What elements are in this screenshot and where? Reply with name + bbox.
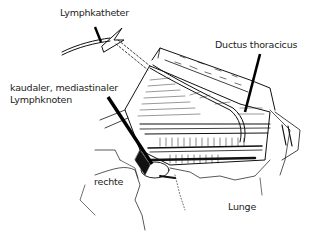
label-rechte: rechte	[94, 176, 123, 187]
label-lymphkatheter: Lymphkatheter	[60, 7, 129, 18]
left-lung-outline	[170, 160, 270, 180]
surgical-illustration	[0, 0, 313, 233]
label-lunge: Lunge	[228, 201, 256, 212]
label-kaudaler-mediastinaler: kaudaler, mediastinaler	[10, 82, 118, 93]
label-ductus-thoracicus: Ductus thoracicus	[215, 39, 297, 50]
catheter-hub	[102, 28, 124, 52]
lymphknoten-pointer	[108, 97, 152, 164]
label-lymphknoten: Lymphknoten	[10, 94, 72, 105]
